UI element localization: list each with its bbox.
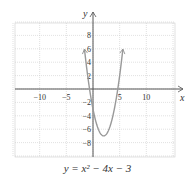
plot-area: xy−10−55108642−2−4−6−8 bbox=[0, 0, 195, 187]
svg-text:−5: −5 bbox=[62, 93, 71, 102]
svg-text:4: 4 bbox=[87, 58, 91, 67]
svg-text:−10: −10 bbox=[33, 93, 46, 102]
svg-text:−8: −8 bbox=[82, 139, 91, 148]
svg-text:x: x bbox=[179, 92, 185, 103]
svg-text:8: 8 bbox=[87, 31, 91, 40]
svg-text:5: 5 bbox=[118, 93, 122, 102]
svg-text:y: y bbox=[82, 8, 88, 19]
svg-text:−2: −2 bbox=[82, 98, 91, 107]
svg-text:10: 10 bbox=[142, 93, 150, 102]
chart-caption: y = x² − 4x − 3 bbox=[0, 162, 195, 174]
svg-text:−4: −4 bbox=[82, 112, 91, 121]
svg-text:−6: −6 bbox=[82, 125, 91, 134]
chart: xy−10−55108642−2−4−6−8 y = x² − 4x − 3 bbox=[0, 0, 195, 187]
